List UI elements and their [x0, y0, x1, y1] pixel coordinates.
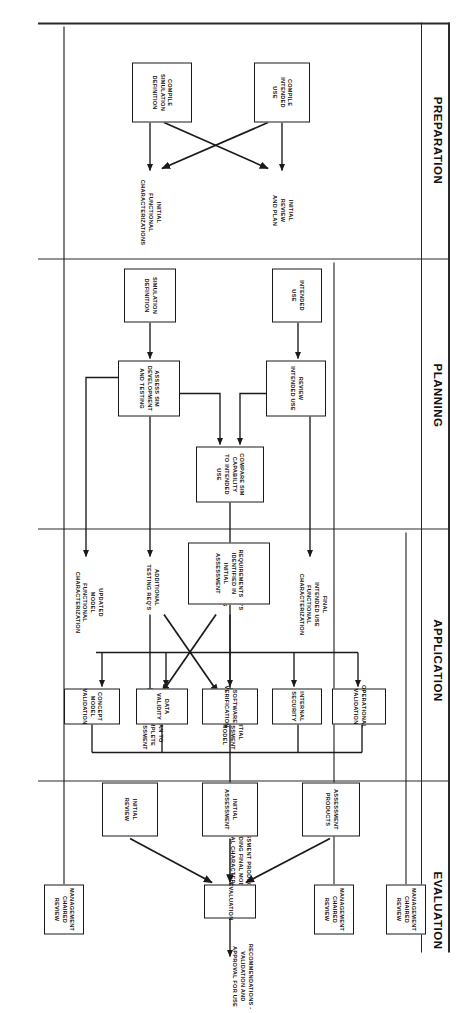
node-software-verification[interactable]: SOFTWARE VERIFICATION	[202, 688, 258, 724]
node-internal-security[interactable]: INTERNAL SECURITY	[272, 688, 322, 724]
node-compile-intended-use[interactable]: COMPILE INTENDED USE	[254, 62, 310, 122]
node-requirements-identified-in-initial-assessment[interactable]: REQUIREMENTS IDENTIFIED IN INITIAL ASSES…	[188, 542, 270, 604]
node-assessment-products[interactable]: ASSESSMENT PRODUCTS	[302, 782, 360, 836]
node-initial-review[interactable]: INITIAL REVIEW	[102, 782, 158, 836]
gate-management-chaired-review-preparation[interactable]: MANAGEMENT CHAIRED REVIEW	[44, 884, 84, 934]
node-assess-sim-development-and-testing[interactable]: ASSESS SIM DEVELOPMENT AND TESTING	[118, 360, 180, 416]
node-concept-model-validation[interactable]: CONCEPT MODEL VALIDATION	[64, 688, 120, 724]
node-initial-assessment[interactable]: INITIAL ASSESSMENT	[202, 782, 258, 836]
node-intended-use[interactable]: INTENDED USE	[272, 268, 322, 322]
label-additional-testing-reqs: ADDITIONAL TESTING REQ'S	[144, 556, 160, 618]
node-operational-validation[interactable]: OPERATIONAL VALIDATION	[332, 688, 386, 724]
node-compile-simulation-definition[interactable]: COMPILE SIMULATION DEFINITION	[132, 62, 192, 122]
node-data-validity[interactable]: DATA VALIDITY	[136, 688, 188, 724]
label-initial-review-and-plan: INITIAL REVIEW AND PLAN	[271, 172, 294, 248]
gate-management-chaired-review-application[interactable]: MANAGEMENT CHAIRED REVIEW	[386, 884, 426, 934]
node-evaluation[interactable]: EVALUATION	[204, 884, 256, 918]
node-simulation-definition[interactable]: SIMULATION DEFINITION	[124, 268, 176, 322]
label-initial-functional-characterizations: INITIAL FUNCTIONAL CHARACTERIZATIONS	[139, 168, 162, 256]
node-review-intended-use[interactable]: REVIEW INTENDED USE	[266, 360, 326, 416]
node-compare-sim-capability-to-intended-use[interactable]: COMPARE SIM CAPABILITY TO INTENDED USE	[196, 446, 264, 502]
gate-management-chaired-review-planning[interactable]: MANAGEMENT CHAIRED REVIEW	[314, 884, 354, 934]
label-updated-model-functional-characterization: UPDATED MODEL FUNCTIONAL CHARACTERIZATIO…	[73, 556, 104, 648]
label-final-intended-use-functional-characterization: FINAL INTENDED USE FUNCTIONAL CHARACTERI…	[297, 558, 328, 650]
label-recommendations-validation-approval: RECOMMENDATIONS - VALIDATION AND APPROVA…	[231, 930, 254, 1013]
